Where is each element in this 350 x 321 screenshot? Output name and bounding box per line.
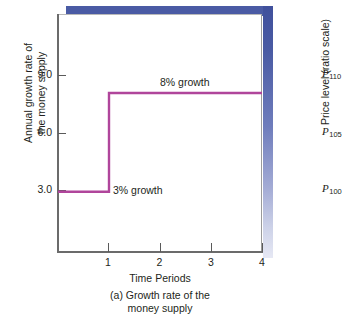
figure-caption-line-2: money supply: [40, 302, 280, 315]
annotation-8-percent-growth: 8% growth: [160, 76, 210, 88]
figure-caption-line-1: (a) Growth rate of the: [40, 289, 280, 302]
y-axis-title: Annual growth rate of the money supply: [22, 13, 48, 173]
price-level-symbol-110: P: [322, 67, 329, 79]
x-axis-title: Time Periods: [57, 272, 263, 284]
annotation-3-percent-growth: 3% growth: [113, 184, 163, 196]
price-level-label-110: P110: [322, 68, 341, 80]
price-level-subscript-100: 100: [329, 187, 342, 196]
figure-growth-rate-of-money-supply: 9.0 6.0 3.0 1 2 3 4 8% growth 3% growth …: [0, 0, 350, 321]
figure-caption: (a) Growth rate of the money supply: [40, 289, 280, 315]
price-level-symbol-100: P: [322, 182, 329, 194]
data-series-money-supply-growth: [58, 93, 262, 192]
price-level-subscript-105: 105: [329, 130, 342, 139]
price-level-label-100: P100: [322, 183, 341, 195]
price-level-label-105: P105: [322, 126, 341, 138]
y-axis-title-line-2: the money supply: [35, 13, 48, 173]
y-axis-title-line-1: Annual growth rate of: [22, 13, 35, 173]
price-level-subscript-110: 110: [329, 72, 341, 81]
price-level-symbol-105: P: [322, 125, 329, 137]
